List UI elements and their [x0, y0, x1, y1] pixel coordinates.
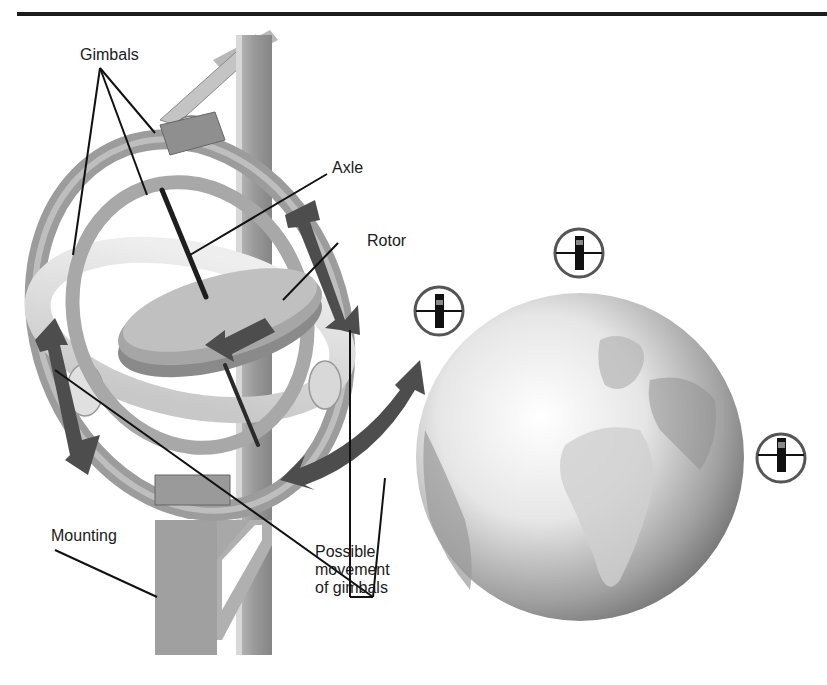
label-axle: Axle: [332, 159, 363, 177]
gyroscope-indicator-right: [757, 434, 805, 482]
label-gimbals: Gimbals: [80, 46, 139, 64]
label-movement-line3: of gimbals: [315, 579, 390, 597]
gyroscope-diagram: [0, 0, 827, 685]
earth-globe: [416, 293, 744, 621]
label-rotor: Rotor: [367, 232, 406, 250]
label-movement-line1: Possible: [315, 543, 390, 561]
label-possible-movement: Possible movement of gimbals: [315, 543, 390, 597]
label-mounting: Mounting: [51, 527, 117, 545]
gyroscope-indicator-top: [555, 229, 603, 277]
label-movement-line2: movement: [315, 561, 390, 579]
gyroscope-indicator-left: [415, 287, 463, 335]
